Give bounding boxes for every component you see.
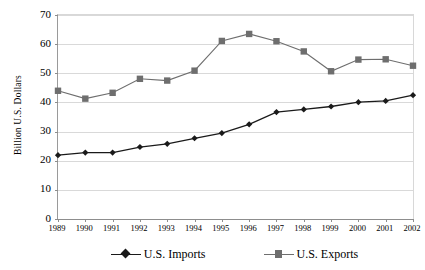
y-tick-label: 40 — [25, 96, 51, 107]
legend-marker-square-icon — [264, 248, 294, 260]
data-point-diamond — [328, 103, 334, 109]
x-tick-mark — [113, 219, 114, 222]
y-tick-label: 50 — [25, 67, 51, 78]
x-tick-mark — [140, 219, 141, 222]
data-point-square — [328, 68, 334, 74]
data-point-diamond — [191, 135, 197, 141]
x-tick-mark — [386, 219, 387, 222]
x-tick-mark — [413, 219, 414, 222]
data-point-square — [355, 56, 361, 62]
data-point-square — [410, 63, 416, 69]
series-imports — [55, 92, 416, 158]
x-tick-mark — [276, 219, 277, 222]
data-point-diamond — [137, 144, 143, 150]
data-point-square — [164, 77, 170, 83]
data-point-diamond — [110, 149, 116, 155]
data-point-diamond — [82, 149, 88, 155]
x-tick-label: 2002 — [392, 224, 425, 233]
plot-area — [57, 14, 414, 220]
data-point-diamond — [246, 121, 252, 127]
data-point-diamond — [383, 98, 389, 104]
y-tick-label: 60 — [25, 38, 51, 49]
data-point-square — [82, 95, 88, 101]
data-point-diamond — [273, 109, 279, 115]
x-tick-mark — [304, 219, 305, 222]
y-tick-label: 30 — [25, 125, 51, 136]
x-tick-mark — [331, 219, 332, 222]
x-tick-mark — [195, 219, 196, 222]
data-point-square — [191, 67, 197, 73]
y-tick-label: 10 — [25, 183, 51, 194]
legend-marker-diamond-icon — [111, 248, 141, 260]
data-point-square — [273, 38, 279, 44]
y-tick-label: 0 — [25, 213, 51, 224]
y-tick-label: 70 — [25, 9, 51, 20]
series-layer — [58, 15, 413, 219]
y-axis-title: Billion U.S. Dollars — [13, 45, 23, 185]
y-tick-label: 20 — [25, 154, 51, 165]
x-tick-mark — [222, 219, 223, 222]
x-tick-mark — [85, 219, 86, 222]
chart-legend: U.S. Imports U.S. Exports — [57, 243, 412, 265]
series-exports — [55, 31, 416, 102]
data-point-square — [382, 56, 388, 62]
x-tick-mark — [167, 219, 168, 222]
data-point-square — [137, 76, 143, 82]
data-point-square — [219, 38, 225, 44]
data-point-square — [246, 31, 252, 37]
data-point-diamond — [410, 92, 416, 98]
data-point-diamond — [55, 152, 61, 158]
legend-item-exports[interactable]: U.S. Exports — [264, 247, 359, 262]
line-chart: Billion U.S. Dollars 010203040506070 198… — [0, 0, 425, 270]
x-tick-mark — [358, 219, 359, 222]
data-point-diamond — [355, 99, 361, 105]
legend-label-exports: U.S. Exports — [297, 247, 359, 262]
legend-label-imports: U.S. Imports — [144, 247, 206, 262]
legend-item-imports[interactable]: U.S. Imports — [111, 247, 206, 262]
data-point-square — [301, 48, 307, 54]
data-point-square — [55, 88, 61, 94]
x-tick-mark — [58, 219, 59, 222]
data-point-diamond — [301, 106, 307, 112]
series-line — [58, 34, 413, 99]
data-point-square — [109, 90, 115, 96]
x-tick-mark — [249, 219, 250, 222]
data-point-diamond — [219, 130, 225, 136]
data-point-diamond — [164, 141, 170, 147]
series-line — [58, 95, 413, 155]
